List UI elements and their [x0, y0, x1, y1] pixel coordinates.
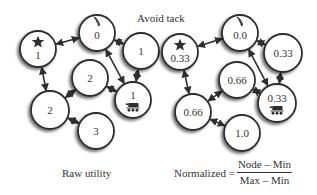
node-value: 2 — [47, 104, 53, 116]
nodes-layer: 10121230.330.00.330.660.330.661.0 — [20, 15, 302, 151]
edge-mid-left — [65, 90, 75, 98]
node-value: 1 — [138, 45, 144, 57]
diagram-title: Avoid tack — [137, 12, 185, 24]
edge-star-left — [42, 67, 47, 91]
node-raw-star: 1 — [20, 31, 56, 67]
node-normalized-right: 0.33 — [264, 34, 302, 72]
node-value: 1.0 — [235, 127, 249, 139]
formula-denominator: Max – Min — [240, 173, 290, 187]
formula-numerator: Node – Min — [237, 158, 292, 173]
raw-utility-caption: Raw utility — [62, 167, 111, 179]
normalized-formula: Normalized = Node – Min Max – Min — [174, 158, 292, 187]
edge-right-top — [257, 41, 266, 45]
edge-star-left — [184, 70, 189, 94]
edge-right-top — [114, 40, 124, 44]
node-value: 0.33 — [267, 92, 287, 104]
edge-right-robot — [279, 72, 280, 83]
edge-bottom-left — [210, 119, 225, 125]
node-normalized-mid: 0.66 — [219, 62, 255, 98]
node-value: 0.33 — [273, 47, 293, 59]
edge-mid-left — [208, 91, 222, 101]
node-raw-mid: 2 — [72, 60, 108, 96]
node-normalized-left: 0.66 — [175, 94, 211, 130]
node-normalized-star: 0.33 — [162, 34, 198, 70]
node-value: 0.33 — [170, 52, 190, 64]
edge-top-star — [56, 38, 79, 44]
node-raw-bottom: 3 — [78, 113, 114, 149]
node-value: 0.0 — [233, 29, 247, 41]
node-value: 0.66 — [183, 106, 203, 118]
node-value: 3 — [93, 125, 99, 137]
node-value: 1 — [130, 89, 136, 101]
node-raw-right: 1 — [123, 33, 159, 69]
edge-bottom-left — [68, 118, 79, 123]
node-value: 2 — [87, 72, 93, 84]
node-value: 0.66 — [227, 74, 247, 86]
edge-right-robot — [136, 69, 138, 81]
node-value: 0 — [94, 29, 100, 41]
node-value: 1 — [35, 49, 41, 61]
node-raw-top: 0 — [79, 15, 115, 51]
node-raw-robot: 1 — [115, 82, 151, 118]
edge-robot-mid — [106, 86, 116, 91]
node-normalized-robot: 0.33 — [258, 84, 296, 122]
node-raw-left: 2 — [31, 91, 69, 129]
edge-top-star — [198, 39, 223, 47]
node-normalized-bottom: 1.0 — [224, 115, 260, 151]
formula-fraction: Node – Min Max – Min — [237, 158, 292, 187]
formula-prefix: Normalized = — [174, 167, 235, 179]
edge-robot-mid — [253, 89, 260, 93]
node-normalized-top: 0.0 — [222, 15, 258, 51]
